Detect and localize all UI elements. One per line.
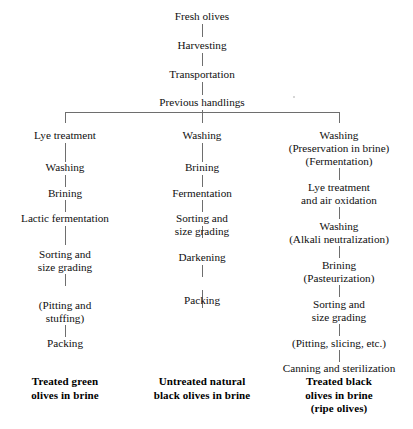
right-connector-5 [339,324,340,336]
node-right-sorting-size-grading: Sorting and size grading [312,298,366,324]
node-label: Transportation [169,68,234,81]
node-label: Canning and sterilization [283,362,395,375]
node-left-sorting-size-grading: Sorting and size grading [38,248,92,274]
node-label-line2: size grading [175,225,229,238]
node-left-washing: Washing [46,161,85,174]
node-label: Harvesting [177,39,226,52]
branch-drop-left [65,112,66,123]
node-label-line1: Brining [304,259,375,272]
node-middle-sorting-size-grading: Sorting and size grading [175,212,229,238]
node-label-line1: (Pitting and [39,299,92,312]
node-label-line1: Sorting and [38,248,92,261]
node-label-line1: Sorting and [175,212,229,225]
node-harvesting: Harvesting [177,39,226,52]
node-label: Fresh olives [175,10,229,23]
node-middle-washing: Washing [183,129,222,142]
connector-fresh-to-harvesting [202,24,203,37]
node-label: Fermentation [172,187,232,200]
terminal-label-line1: Untreated natural [154,375,251,389]
node-label: Lactic fermentation [21,212,109,225]
node-left-packing: Packing [47,337,83,350]
node-label: Lye treatment [34,129,96,142]
middle-connector-2 [202,175,203,187]
node-left-lactic-fermentation: Lactic fermentation [21,212,109,225]
node-label-line2: and air oxidation [301,194,377,207]
terminal-label-line1: Treated black [305,375,373,389]
node-label-line2: (Preservation in brine) [289,142,390,155]
node-label-line2: (Pasteurization) [304,272,375,285]
node-label: Packing [47,337,83,350]
terminal-label-line1: Treated green [31,375,99,389]
node-middle-packing: Packing [184,294,220,307]
connector-harvesting-to-transport [202,53,203,66]
connector-previous-to-split [202,110,203,123]
left-connector-1 [65,143,66,162]
node-right-canning-sterilization: Canning and sterilization [283,362,395,375]
node-label: Brining [48,187,82,200]
node-transportation: Transportation [169,68,234,81]
node-right-lye-treatment-air-oxidation: Lye treatment and air oxidation [301,181,377,207]
left-connector-5 [65,274,66,286]
node-middle-darkening: Darkening [178,251,225,264]
left-connector-4 [65,226,66,245]
right-connector-6 [339,350,340,362]
left-connector-6 [65,325,66,337]
middle-connector-1 [202,143,203,162]
middle-connector-5 [202,265,203,277]
node-label: Washing [183,129,222,142]
node-label: Brining [185,161,219,174]
node-right-washing-alkali: Washing (Alkali neutralization) [289,220,389,246]
right-connector-3 [339,246,340,258]
node-label-line1: Lye treatment [301,181,377,194]
node-label-line3: (Fermentation) [289,155,390,168]
connector-transport-to-previous [202,82,203,95]
branch-split-bar [65,112,340,113]
middle-connector-3 [202,200,203,212]
node-label: Previous handlings [159,96,244,109]
right-connector-4 [339,285,340,297]
node-label-line1: Washing [289,220,389,233]
node-right-washing-preservation: Washing (Preservation in brine) (Ferment… [289,129,390,169]
node-middle-fermentation: Fermentation [172,187,232,200]
node-label: (Pitting, slicing, etc.) [292,337,386,350]
node-middle-brining: Brining [185,161,219,174]
node-label: Washing [46,161,85,174]
node-left-brining: Brining [48,187,82,200]
terminal-treated-black-olives: Treated black olives in brine (ripe oliv… [305,375,373,416]
node-label-line2: size grading [38,261,92,274]
node-left-lye-treatment: Lye treatment [34,129,96,142]
terminal-label-line2: olives in brine [31,389,99,403]
terminal-label-line2: olives in brine [305,389,373,403]
node-label: Darkening [178,251,225,264]
branch-drop-right [339,112,340,123]
node-label-line2: size grading [312,311,366,324]
node-label-line2: stuffing) [39,312,92,325]
olive-processing-flowchart: Fresh olives Harvesting Transportation P… [0,0,413,429]
node-right-brining-pasteurization: Brining (Pasteurization) [304,259,375,285]
scan-speck [293,96,295,98]
node-right-pitting-slicing: (Pitting, slicing, etc.) [292,337,386,350]
right-connector-1 [339,168,340,180]
terminal-treated-green-olives: Treated green olives in brine [31,375,99,402]
node-label-line1: Sorting and [312,298,366,311]
terminal-label-line3: (ripe olives) [305,402,373,416]
terminal-untreated-natural-black-olives: Untreated natural black olives in brine [154,375,251,402]
node-previous-handlings: Previous handlings [159,96,244,109]
node-label: Packing [184,294,220,307]
left-connector-2 [65,175,66,187]
right-connector-2 [339,207,340,219]
node-label-line2: (Alkali neutralization) [289,233,389,246]
left-connector-3 [65,200,66,212]
terminal-label-line2: black olives in brine [154,389,251,403]
node-fresh-olives: Fresh olives [175,10,229,23]
node-left-pitting-stuffing: (Pitting and stuffing) [39,299,92,325]
node-label-line1: Washing [289,129,390,142]
